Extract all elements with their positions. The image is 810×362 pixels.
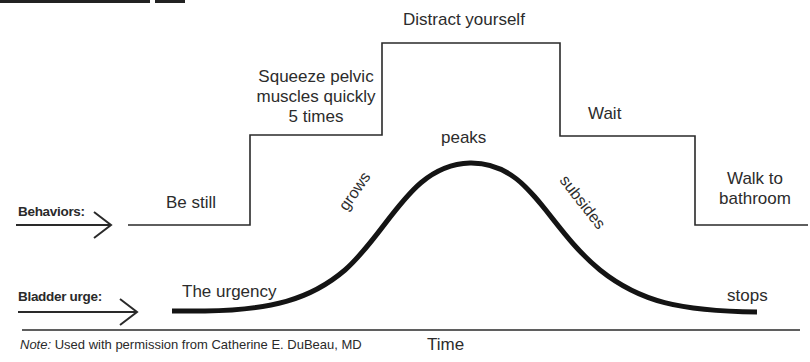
urge-start-label: The urgency (182, 282, 277, 302)
behavior-squeeze-line-1: Squeeze pelvic (232, 67, 400, 87)
time-axis-label: Time (427, 335, 464, 355)
permission-note: Note: Used with permission from Catherin… (20, 337, 362, 352)
note-text: Used with permission from Catherine E. D… (51, 337, 362, 352)
behaviors-row-label: Behaviors: (18, 204, 85, 219)
bladder-urge-row-label: Bladder urge: (18, 289, 102, 304)
behavior-squeeze-line-3: 5 times (232, 107, 400, 127)
behavior-wait: Wait (588, 104, 621, 124)
behavior-squeeze-line-2: muscles quickly (232, 87, 400, 107)
behavior-distract-yourself: Distract yourself (403, 10, 525, 30)
behavior-walk-line-1: Walk to (710, 169, 800, 189)
diagram-canvas (0, 0, 810, 362)
urge-peaks-label: peaks (441, 128, 486, 148)
urge-stops-label: stops (727, 286, 768, 306)
behavior-be-still: Be still (166, 193, 216, 213)
behavior-squeeze-pelvic: Squeeze pelvic muscles quickly 5 times (232, 67, 400, 127)
behavior-walk-line-2: bathroom (710, 189, 800, 209)
behavior-walk-to-bathroom: Walk to bathroom (710, 169, 800, 209)
note-prefix: Note: (20, 337, 51, 352)
